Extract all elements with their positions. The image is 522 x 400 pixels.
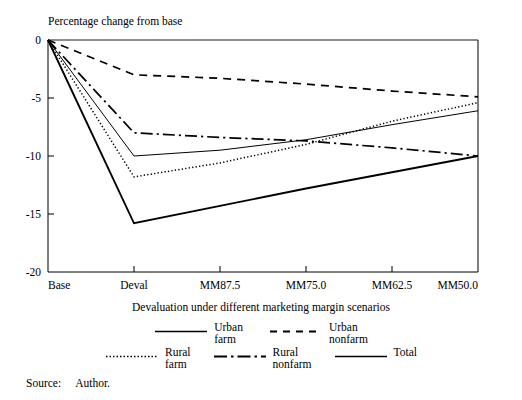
- series-line-total: [48, 40, 478, 223]
- data-series-group: [48, 40, 478, 223]
- legend-item-rural-farm: Ruralfarm: [105, 347, 191, 370]
- x-tick-label: MM75.0: [286, 279, 327, 291]
- x-tick-label: Base: [48, 279, 70, 291]
- chart-legend: Urbanfarm Urbannonfarm Ruralfarm Rura: [0, 322, 522, 373]
- y-tick-label: -10: [26, 150, 42, 162]
- x-tick-label: MM62.5: [372, 279, 413, 291]
- x-axis-title: Devaluation under different marketing ma…: [0, 302, 522, 314]
- legend-label-rural-farm: Ruralfarm: [165, 347, 191, 370]
- legend-swatch-rural-farm: [105, 351, 159, 362]
- figure-container: Percentage change from base 0-5-10-15-20…: [0, 0, 522, 400]
- series-line-urban-nonfarm: [48, 40, 478, 97]
- legend-swatch-urban-nonfarm: [269, 326, 323, 337]
- legend-swatch-urban-farm: [154, 326, 208, 337]
- y-axis-ticks: [48, 98, 54, 214]
- plot-frame: [48, 40, 478, 272]
- legend-label-urban-nonfarm: Urbannonfarm: [329, 322, 368, 345]
- y-tick-label: -20: [26, 266, 42, 278]
- source-label: Source:: [26, 377, 61, 389]
- legend-item-urban-nonfarm: Urbannonfarm: [269, 322, 368, 345]
- x-tick-label: Deval: [120, 279, 147, 291]
- legend-item-rural-nonfarm: Ruralnonfarm: [213, 347, 312, 370]
- legend-label-urban-farm: Urbanfarm: [214, 322, 243, 345]
- legend-label-total: Total: [394, 347, 417, 359]
- x-tick-label: MM50.0: [437, 279, 478, 291]
- legend-item-total: Total: [334, 347, 417, 362]
- x-axis-tick-labels: BaseDevalMM87.5MM75.0MM62.5MM50.0: [48, 279, 478, 291]
- legend-swatch-total: [334, 351, 388, 362]
- line-chart-plot: 0-5-10-15-20 BaseDevalMM87.5MM75.0MM62.5…: [0, 0, 522, 300]
- legend-swatch-rural-nonfarm: [213, 351, 267, 362]
- y-axis-tick-labels: 0-5-10-15-20: [26, 34, 42, 278]
- legend-item-urban-farm: Urbanfarm: [154, 322, 243, 345]
- legend-label-rural-nonfarm: Ruralnonfarm: [273, 347, 312, 370]
- series-line-rural-nonfarm: [48, 40, 478, 156]
- y-tick-label: 0: [35, 34, 41, 46]
- y-tick-label: -15: [26, 208, 42, 220]
- source-value: Author.: [75, 377, 110, 389]
- x-axis-ticks: [134, 266, 392, 272]
- y-tick-label: -5: [31, 92, 41, 104]
- source-note: Source:Author.: [26, 378, 110, 390]
- x-tick-label: MM87.5: [200, 279, 241, 291]
